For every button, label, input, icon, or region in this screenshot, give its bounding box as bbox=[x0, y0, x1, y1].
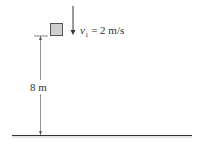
velocity-arrow-icon bbox=[71, 6, 76, 35]
ground-shading bbox=[12, 136, 192, 138]
falling-block bbox=[51, 24, 63, 36]
velocity-value: = 2 m/s bbox=[88, 24, 124, 36]
diagram-canvas bbox=[0, 0, 205, 149]
height-label: 8 m bbox=[29, 82, 48, 93]
velocity-label: v1 = 2 m/s bbox=[80, 25, 124, 39]
